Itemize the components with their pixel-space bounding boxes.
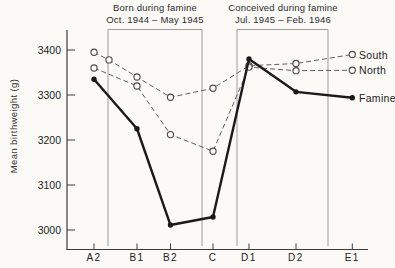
x-tick-label-a2: A2: [86, 252, 101, 263]
open-circle-marker: [210, 148, 216, 154]
filled-circle-marker: [246, 56, 251, 61]
series-line-north: [94, 67, 352, 151]
open-circle-marker: [210, 85, 216, 91]
y-tick-label: 3200: [29, 134, 61, 146]
open-circle-marker: [167, 132, 173, 138]
x-tick-label-d1: D1: [241, 252, 257, 263]
x-tick-label-c: C: [209, 252, 218, 263]
series-line-south: [94, 52, 352, 97]
y-tick-label: 3100: [29, 179, 61, 191]
x-tick-label-e1: E1: [345, 252, 360, 263]
filled-circle-marker: [168, 222, 173, 227]
x-tick-label-b2: B2: [163, 252, 178, 263]
open-circle-marker: [167, 94, 173, 100]
filled-circle-marker: [350, 95, 355, 100]
y-tick-label: 3000: [29, 224, 61, 236]
birthweight-famine-chart: Mean birthweight (g) Born during famine …: [0, 0, 395, 268]
filled-circle-marker: [91, 77, 96, 82]
open-circle-marker: [134, 74, 140, 80]
x-tick-label-d2: D2: [288, 252, 304, 263]
legend-label-south: South: [359, 49, 388, 61]
y-tick-label: 3400: [29, 44, 61, 56]
open-circle-marker: [91, 65, 97, 71]
famine-period-box-2: [237, 30, 328, 247]
y-tick-label: 3300: [29, 89, 61, 101]
famine-period-box-1: [108, 30, 202, 247]
x-tick-label-b1: B1: [129, 252, 144, 263]
legend-label-famine: Famine: [359, 92, 395, 104]
open-circle-marker: [134, 83, 140, 89]
filled-circle-marker: [134, 126, 139, 131]
legend-label-north: North: [359, 64, 386, 76]
open-circle-marker: [349, 51, 355, 57]
filled-circle-marker: [210, 214, 215, 219]
open-circle-marker: [349, 67, 355, 73]
open-circle-marker: [293, 68, 299, 74]
open-circle-marker: [293, 60, 299, 66]
open-circle-marker: [106, 57, 112, 63]
filled-circle-marker: [293, 89, 298, 94]
open-circle-marker: [91, 49, 97, 55]
